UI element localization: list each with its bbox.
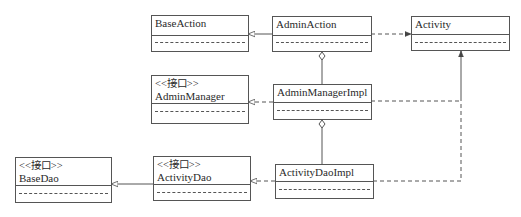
class-header: Activity (412, 17, 509, 35)
class-name: AdminAction (276, 18, 368, 31)
interface-basedao[interactable]: <<接口>> BaseDao (15, 157, 112, 203)
class-name: AdminManagerImpl (277, 86, 368, 99)
attributes-compartment (276, 42, 368, 43)
class-header: <<接口>> ActivityDao (154, 157, 250, 185)
interface-activitydao[interactable]: <<接口>> ActivityDao (153, 156, 251, 201)
class-header: AdminAction (273, 17, 371, 36)
class-header: BaseAction (152, 16, 248, 36)
class-header: <<接口>> AdminManager (152, 76, 248, 104)
class-header: AdminManagerImpl (274, 85, 371, 103)
stereotype-label: <<接口>> (155, 77, 245, 90)
attributes-compartment (277, 110, 368, 111)
aggregation-diamond-icon (319, 120, 325, 128)
class-name: BaseAction (155, 17, 245, 30)
class-adminmanagerimpl[interactable]: AdminManagerImpl (273, 84, 372, 120)
attributes-compartment (415, 42, 506, 43)
attributes-compartment (279, 189, 370, 190)
class-name: BaseDao (19, 172, 108, 185)
interface-adminmanager[interactable]: <<接口>> AdminManager (151, 75, 249, 124)
attributes-compartment (155, 42, 245, 43)
class-name: Activity (415, 18, 506, 31)
class-adminaction[interactable]: AdminAction (272, 16, 372, 52)
attributes-compartment (157, 192, 247, 193)
attributes-compartment (19, 193, 108, 194)
dependency-activitydaoimpl-activity (373, 101, 461, 181)
attributes-compartment (155, 111, 245, 112)
stereotype-label: <<接口>> (157, 158, 247, 171)
class-activitydaoimpl[interactable]: ActivityDaoImpl (275, 164, 374, 199)
class-activity[interactable]: Activity (411, 16, 510, 51)
class-name: AdminManager (155, 90, 245, 103)
class-header: ActivityDaoImpl (276, 165, 373, 182)
stereotype-label: <<接口>> (19, 159, 108, 172)
class-baseaction[interactable]: BaseAction (151, 15, 249, 52)
class-name: ActivityDaoImpl (279, 166, 370, 179)
class-header: <<接口>> BaseDao (16, 158, 111, 186)
aggregation-diamond-icon (319, 52, 325, 60)
class-name: ActivityDao (157, 171, 247, 184)
